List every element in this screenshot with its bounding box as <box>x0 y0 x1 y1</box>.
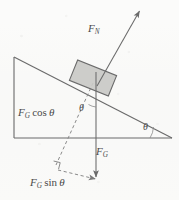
gravity-cos-symbol: F <box>18 106 25 118</box>
gravity-cos-operator-text: cos <box>32 106 47 118</box>
theta-arc-at-base <box>150 127 154 138</box>
gravity-sin-operator-text: sin <box>44 176 57 188</box>
gravity-subscript: G <box>103 151 108 159</box>
gravity-cos-label: FG cos θ <box>18 107 54 120</box>
gravity-label: FG <box>96 146 108 159</box>
gravity-cos-component-line <box>56 83 93 165</box>
gravity-sin-label: FG sin θ <box>30 177 65 190</box>
normal-force-subscript: N <box>95 28 100 36</box>
theta-arc-at-block <box>89 105 97 108</box>
gravity-sin-symbol: F <box>30 176 37 188</box>
normal-force-symbol: F <box>88 22 95 34</box>
normal-force-vector <box>97 11 140 86</box>
theta-label-at-base: θ <box>143 122 148 132</box>
right-angle-marker <box>54 161 61 169</box>
gravity-sin-theta: θ <box>59 176 64 188</box>
block-on-incline <box>69 60 116 96</box>
block-body <box>69 60 116 96</box>
theta-label-at-block: θ <box>79 103 84 113</box>
normal-force-label: FN <box>88 23 100 36</box>
inclined-plane-force-diagram: FN FG cos θ FG FG sin θ θ θ <box>0 0 179 200</box>
gravity-symbol: F <box>96 145 103 157</box>
gravity-cos-theta: θ <box>49 106 54 118</box>
